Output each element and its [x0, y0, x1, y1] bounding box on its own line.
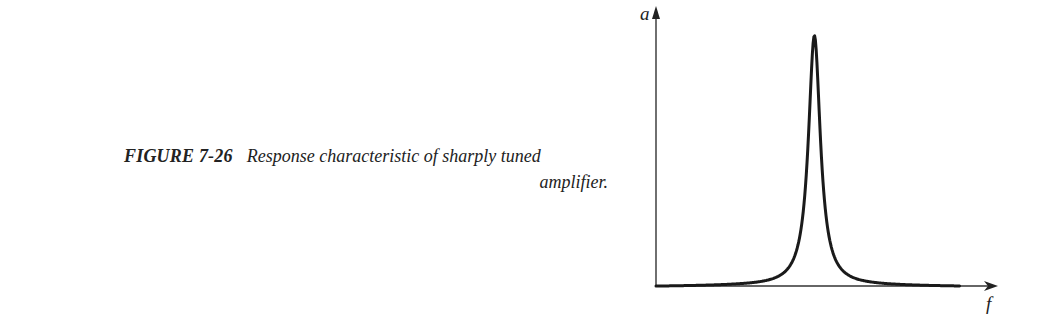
response-chart: a f [0, 0, 1042, 317]
response-curve [656, 36, 960, 286]
y-axis-arrowhead [652, 6, 660, 19]
y-axis-label: a [640, 3, 650, 24]
x-axis-label: f [986, 293, 994, 314]
